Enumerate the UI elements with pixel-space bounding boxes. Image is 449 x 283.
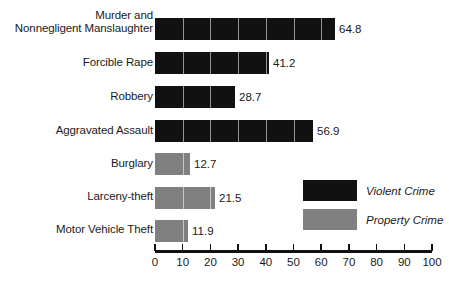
legend-swatch-property-crime [303, 209, 357, 230]
value-label-motor-vehicle-theft: 11.9 [192, 225, 214, 237]
legend-label-violent-crime: Violent Crime [366, 185, 435, 197]
x-axis-tick-20 [210, 244, 212, 251]
legend: Violent Crime Property Crime [303, 180, 443, 238]
x-axis-tick-100 [431, 244, 433, 251]
value-label-forcible-rape: 41.2 [273, 57, 295, 69]
legend-item-property-crime: Property Crime [303, 209, 443, 230]
x-axis-tick-label-40: 40 [259, 256, 272, 268]
x-axis-tick-80 [376, 244, 378, 251]
x-axis-tick-70 [348, 244, 350, 251]
x-axis-tick-50 [293, 244, 295, 251]
value-label-aggravated-assault: 56.9 [317, 125, 339, 137]
category-label-murder: Murder and Nonnegligent Manslaughter [15, 9, 153, 35]
bar-segment-dividers [155, 187, 215, 209]
bar-segment-dividers [155, 52, 269, 74]
category-label-motor-vehicle-theft: Motor Vehicle Theft [56, 223, 153, 236]
bar-segment-dividers [155, 18, 335, 40]
x-axis-tick-label-60: 60 [315, 256, 328, 268]
bar-robbery [155, 86, 235, 108]
category-label-aggravated-assault: Aggravated Assault [56, 124, 153, 137]
bar-burglary [155, 153, 190, 175]
legend-item-violent-crime: Violent Crime [303, 180, 443, 201]
bar-larceny-theft [155, 187, 215, 209]
x-axis-tick-0 [154, 244, 156, 251]
bar-segment-dividers [155, 86, 235, 108]
value-label-larceny-theft: 21.5 [219, 192, 241, 204]
x-axis-tick-label-100: 100 [422, 256, 441, 268]
bar-aggravated-assault [155, 120, 313, 142]
category-label-burglary: Burglary [111, 157, 153, 170]
bar-chart: Murder and Nonnegligent Manslaughter For… [0, 0, 449, 283]
bar-motor-vehicle-theft [155, 220, 188, 242]
x-axis-tick-label-70: 70 [342, 256, 355, 268]
bar-forcible-rape [155, 52, 269, 74]
category-label-larceny-theft: Larceny-theft [87, 190, 153, 203]
legend-swatch-violent-crime [303, 180, 357, 201]
x-axis-tick-30 [237, 244, 239, 251]
x-axis-tick-label-80: 80 [370, 256, 383, 268]
x-axis-tick-label-90: 90 [398, 256, 411, 268]
x-axis-tick-10 [182, 244, 184, 251]
x-axis-tick-label-10: 10 [176, 256, 189, 268]
legend-label-property-crime: Property Crime [366, 214, 443, 226]
value-label-robbery: 28.7 [239, 91, 261, 103]
x-axis-tick-label-0: 0 [152, 256, 158, 268]
value-label-burglary: 12.7 [194, 158, 216, 170]
x-axis-tick-label-50: 50 [287, 256, 300, 268]
bar-segment-dividers [155, 153, 190, 175]
bar-segment-dividers [155, 220, 188, 242]
bar-murder [155, 18, 335, 40]
category-label-forcible-rape: Forcible Rape [83, 56, 153, 69]
x-axis-tick-label-20: 20 [204, 256, 217, 268]
x-axis-tick-60 [320, 244, 322, 251]
x-axis-tick-40 [265, 244, 267, 251]
x-axis-tick-label-30: 30 [232, 256, 245, 268]
bar-segment-dividers [155, 120, 313, 142]
category-label-robbery: Robbery [110, 90, 153, 103]
value-label-murder: 64.8 [339, 23, 361, 35]
x-axis-tick-90 [404, 244, 406, 251]
